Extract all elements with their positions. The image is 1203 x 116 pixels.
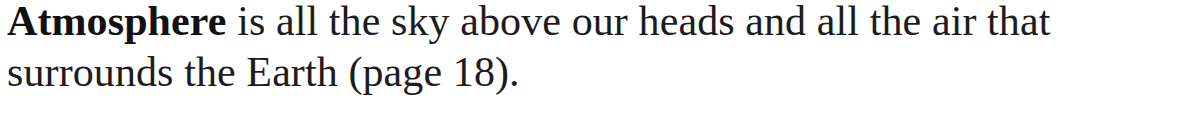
- glossary-entry: Atmosphere is all the sky above our head…: [7, 0, 1203, 98]
- glossary-line-1: Atmosphere is all the sky above our head…: [7, 0, 1203, 47]
- glossary-definition-part-1: is all the sky above our heads and all t…: [227, 0, 1051, 44]
- glossary-definition-part-2: surrounds the Earth (page 18).: [7, 49, 520, 95]
- glossary-line-2: surrounds the Earth (page 18).: [7, 47, 1203, 98]
- glossary-term: Atmosphere: [7, 0, 227, 44]
